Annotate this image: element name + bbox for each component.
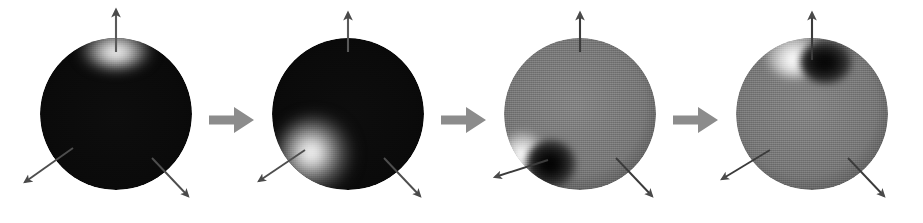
sphere-4-vector-lower-right [848, 158, 884, 196]
step-arrow-2 [441, 105, 486, 135]
sphere-3-vector-lower-left [495, 160, 548, 177]
sphere-2-vectors [259, 13, 420, 196]
figure-canvas: Spin sphere evolution sequence Four shad… [0, 0, 923, 223]
sphere-2-vector-lower-left [259, 150, 305, 181]
sphere-4-vector-lower-left [722, 150, 770, 179]
sphere-3-vector-lower-right [616, 158, 652, 196]
sphere-1-vector-lower-right [152, 158, 188, 196]
sphere-1-vector-lower-left [25, 148, 73, 182]
step-arrow-3 [673, 105, 718, 135]
step-arrow-1 [209, 105, 254, 135]
sphere-2-vector-lower-right [384, 158, 420, 196]
sphere-4-vectors [722, 13, 884, 196]
sphere-1-vectors [25, 10, 188, 196]
sphere-3-vectors [495, 13, 652, 196]
